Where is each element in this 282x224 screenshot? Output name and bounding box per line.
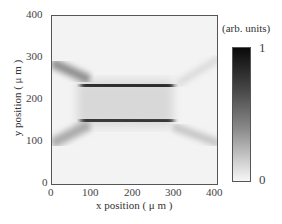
x-tick-300: 300 xyxy=(165,186,182,198)
x-axis-label: x position ( μ m ) xyxy=(96,199,172,211)
y-tick-400: 400 xyxy=(26,8,43,20)
x-tick-200: 200 xyxy=(124,186,141,198)
colorbar xyxy=(232,47,251,182)
y-tick-100: 100 xyxy=(26,134,43,146)
y-tick-200: 200 xyxy=(26,92,43,104)
x-tick-0: 0 xyxy=(48,186,54,198)
y-tick-300: 300 xyxy=(26,50,43,62)
heatmap-plot-area xyxy=(51,15,218,185)
colorbar-min: 0 xyxy=(259,172,266,188)
colorbar-label: (arb. units) xyxy=(222,22,270,34)
colorbar-max: 1 xyxy=(259,40,266,56)
x-tick-400: 400 xyxy=(206,186,223,198)
y-tick-0: 0 xyxy=(42,176,48,188)
y-axis-label: y position ( μ m ) xyxy=(11,48,23,148)
heatmap-image xyxy=(52,16,218,185)
x-tick-100: 100 xyxy=(82,186,99,198)
